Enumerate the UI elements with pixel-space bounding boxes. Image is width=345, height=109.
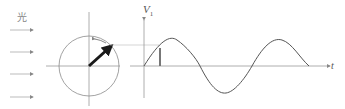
voltage-symbol: V — [143, 3, 150, 15]
phasor-circle-group — [46, 12, 160, 106]
light-rays — [10, 30, 33, 97]
phasor-diagram — [0, 0, 345, 109]
voltage-subscript: 1 — [150, 10, 154, 18]
sine-plot — [130, 20, 330, 98]
voltage-axis-label: V1 — [143, 3, 153, 18]
light-label: 光 — [17, 9, 27, 24]
time-axis-label: t — [331, 60, 334, 71]
